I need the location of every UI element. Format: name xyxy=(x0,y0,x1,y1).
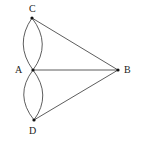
label-b: B xyxy=(124,64,131,75)
edge-a-d-right xyxy=(33,70,43,120)
edge-a-d-left xyxy=(24,70,34,120)
node-a xyxy=(31,68,34,71)
label-a: A xyxy=(15,64,23,75)
node-d xyxy=(32,118,35,121)
label-c: C xyxy=(29,3,36,14)
edge-c-a-right xyxy=(32,18,42,70)
node-b xyxy=(116,68,119,71)
edge-d-b xyxy=(34,70,118,120)
label-d: D xyxy=(29,125,36,136)
node-c xyxy=(30,16,33,19)
edge-c-a-left xyxy=(23,18,33,70)
edge-c-b xyxy=(32,18,118,70)
graph-diagram: C A B D xyxy=(0,0,142,145)
